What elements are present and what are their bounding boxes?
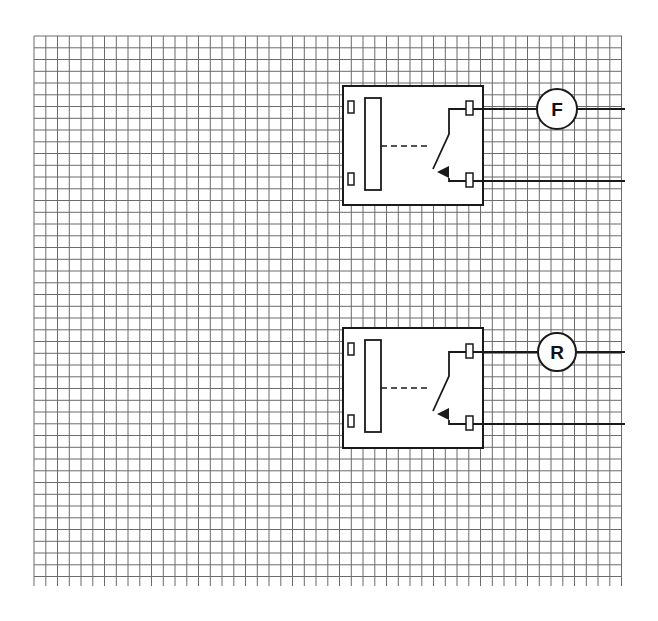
relay-coil bbox=[365, 98, 381, 190]
relay-group: FR bbox=[343, 86, 625, 448]
output-terminal-bottom bbox=[466, 173, 473, 187]
output-terminal-top bbox=[466, 344, 473, 358]
load-label: R bbox=[550, 342, 564, 363]
schematic-canvas: FR bbox=[0, 0, 658, 621]
relay-coil bbox=[365, 340, 381, 432]
output-terminal-top bbox=[466, 101, 473, 115]
coil-terminal-top bbox=[348, 343, 354, 355]
coil-terminal-bottom bbox=[348, 173, 354, 185]
graph-paper-grid bbox=[34, 36, 622, 586]
coil-terminal-top bbox=[348, 101, 354, 113]
coil-terminal-bottom bbox=[348, 415, 354, 427]
output-terminal-bottom bbox=[466, 416, 473, 430]
relay-forward: F bbox=[343, 86, 625, 205]
load-label: F bbox=[551, 99, 563, 120]
